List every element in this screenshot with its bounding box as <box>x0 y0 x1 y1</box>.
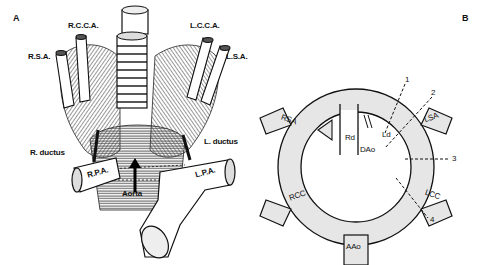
label-lcca: L.C.C.A. <box>190 21 220 30</box>
label-l-ductus: L. ductus <box>204 137 238 146</box>
label-b-lsa: LSA <box>423 111 440 124</box>
label-cut-1: 1 <box>405 75 409 84</box>
label-b-dao: DAo <box>360 145 375 154</box>
label-cut-2: 2 <box>431 88 435 97</box>
panel-a-drawing <box>0 0 240 265</box>
label-b-rcc: RCC <box>288 188 307 202</box>
label-lsa: L.S.A. <box>226 52 247 61</box>
label-rsa: R.S.A. <box>28 52 50 61</box>
label-b-aao: AAo <box>346 242 361 251</box>
label-aorta: Aorta <box>122 189 142 198</box>
trachea <box>117 6 148 108</box>
label-b-lcc: LCC <box>424 188 442 202</box>
label-cut-3: 3 <box>452 154 456 163</box>
label-r-ductus: R. ductus <box>30 148 65 157</box>
label-b-ld: Ld <box>382 130 391 139</box>
label-b-rsa: RSA <box>280 113 298 127</box>
label-b-rd: Rd <box>345 133 355 142</box>
label-rcca: R.C.C.A. <box>68 21 98 30</box>
panel-b-label: B <box>462 13 469 23</box>
label-cut-4: 4 <box>430 215 434 224</box>
cut-lines <box>385 84 450 218</box>
